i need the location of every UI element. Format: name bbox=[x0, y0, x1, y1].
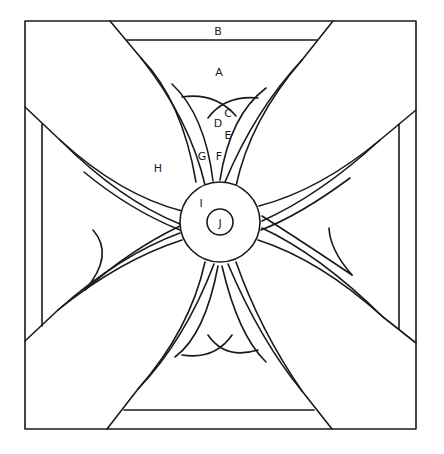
label-G: G bbox=[198, 150, 207, 163]
label-H: H bbox=[154, 162, 162, 175]
petal-left bbox=[25, 107, 182, 341]
label-A: A bbox=[215, 66, 223, 79]
label-J: J bbox=[217, 217, 221, 230]
label-D: D bbox=[214, 117, 222, 130]
label-I: I bbox=[199, 197, 202, 210]
petal-right bbox=[258, 110, 416, 343]
stained-glass-diagram: B A C D E G F H I J bbox=[0, 0, 444, 454]
label-B: B bbox=[214, 25, 222, 38]
petal-bottom bbox=[107, 262, 332, 429]
label-E: E bbox=[225, 129, 232, 142]
label-F: F bbox=[216, 150, 222, 163]
label-C: C bbox=[224, 107, 232, 120]
